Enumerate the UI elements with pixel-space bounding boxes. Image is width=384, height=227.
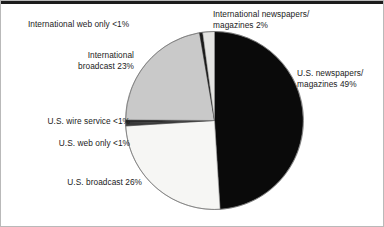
pie-chart-graphic <box>0 0 384 227</box>
pie-label-international-broadcast: International broadcast 23% <box>22 50 134 71</box>
pie-slice-international-broadcast <box>126 33 215 121</box>
pie-chart-figure: International newspapers/ magazines 2% I… <box>0 0 384 227</box>
pie-label-international-web-only: International web only <1% <box>28 19 203 30</box>
pie-slices <box>126 31 304 209</box>
pie-slice-us-newspapers-magazines <box>215 32 304 210</box>
pie-label-us-wire-service: U.S. wire service <1% <box>0 116 130 127</box>
pie-label-us-broadcast: U.S. broadcast 26% <box>0 177 142 188</box>
pie-label-international-newspapers-magazines: International newspapers/ magazines 2% <box>213 9 378 30</box>
pie-label-us-web-only: U.S. web only <1% <box>0 138 130 149</box>
pie-label-us-newspapers-magazines: U.S. newspapers/ magazines 49% <box>297 68 383 89</box>
pie-slice-us-broadcast <box>126 121 221 210</box>
